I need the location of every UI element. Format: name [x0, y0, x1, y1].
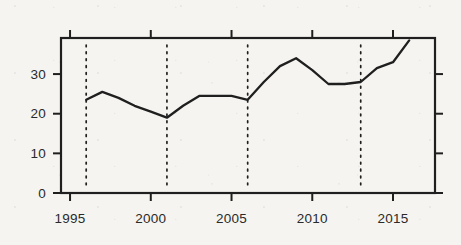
y-tick-label: 30: [30, 67, 46, 82]
x-tick-label: 2015: [377, 211, 408, 226]
x-tick-label: 2005: [216, 211, 247, 226]
x-tick-label: 2000: [135, 211, 166, 226]
x-tick-label: 2010: [297, 211, 328, 226]
y-tick-label: 10: [30, 146, 46, 161]
x-tick-label: 1995: [54, 211, 85, 226]
scanned-page: 199520002005201020150102030: [0, 0, 461, 245]
y-tick-label: 20: [30, 106, 46, 121]
y-tick-label: 0: [38, 186, 46, 201]
line-chart-figure: 199520002005201020150102030: [0, 0, 461, 245]
